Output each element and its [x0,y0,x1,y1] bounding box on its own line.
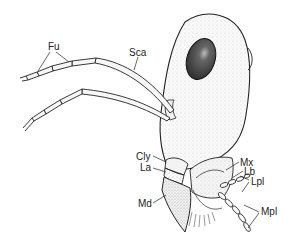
label-lpl: Lpl [251,177,264,187]
insect-head-diagram: Fu Sca Cly La Md Mx Lb Lpl Mpl [0,0,297,241]
antenna-lower [23,89,170,131]
mouthparts [189,157,233,227]
label-sca: Sca [129,48,146,58]
label-md: Md [138,199,152,209]
label-mpl: Mpl [261,207,277,217]
antenna-upper [20,58,174,113]
head-capsule [160,14,252,169]
label-la: La [140,163,151,173]
label-cly: Cly [136,152,150,162]
maxillary-palp [217,191,251,232]
label-fu: Fu [48,42,60,52]
